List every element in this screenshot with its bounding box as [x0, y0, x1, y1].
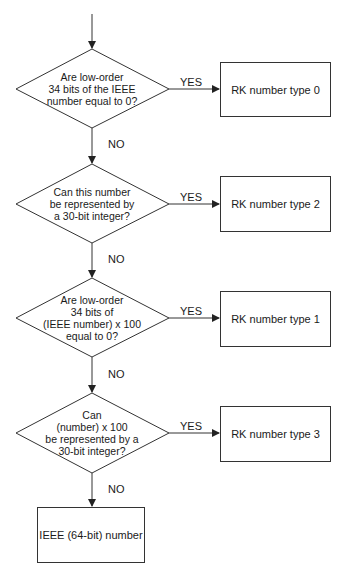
final-label: IEEE (64-bit) number [39, 529, 142, 541]
decision-text-4: Can (number) x 100 be represented by a 3… [32, 409, 152, 457]
no-label-2: NO [108, 253, 125, 265]
yes-label-1: YES [180, 76, 202, 88]
no-label-1: NO [108, 138, 125, 150]
outcome-box-type-1: RK number type 1 [220, 291, 331, 347]
no-label-3: NO [108, 368, 125, 380]
decision-1-line-3: number equal to 0? [32, 95, 152, 107]
yes-label-4: YES [180, 420, 202, 432]
decision-4-line-2: (number) x 100 [32, 421, 152, 433]
outcome-label-type-0: RK number type 0 [231, 84, 320, 96]
decision-1-line-2: 34 bits of the IEEE [32, 83, 152, 95]
decision-text-2: Can this number be represented by a 30-b… [32, 186, 152, 222]
decision-2-line-3: a 30-bit integer? [32, 210, 152, 222]
decision-3-line-4: equal to 0? [32, 330, 152, 342]
decision-4-line-4: 30-bit integer? [32, 445, 152, 457]
decision-text-1: Are low-order 34 bits of the IEEE number… [32, 71, 152, 107]
decision-3-line-2: 34 bits of [32, 306, 152, 318]
yes-label-2: YES [180, 191, 202, 203]
outcome-label-type-1: RK number type 1 [231, 313, 320, 325]
no-label-4: NO [108, 483, 125, 495]
decision-4-line-3: be represented by a [32, 433, 152, 445]
decision-2-line-2: be represented by [32, 198, 152, 210]
decision-3-line-3: (IEEE number) x 100 [32, 318, 152, 330]
outcome-label-type-2: RK number type 2 [231, 198, 320, 210]
outcome-box-type-3: RK number type 3 [220, 406, 331, 462]
decision-4-line-1: Can [32, 409, 152, 421]
decision-1-line-1: Are low-order [32, 71, 152, 83]
outcome-box-type-2: RK number type 2 [220, 176, 331, 232]
outcome-box-type-0: RK number type 0 [220, 62, 331, 117]
yes-label-3: YES [180, 305, 202, 317]
decision-3-line-1: Are low-order [32, 294, 152, 306]
outcome-label-type-3: RK number type 3 [231, 428, 320, 440]
decision-2-line-1: Can this number [32, 186, 152, 198]
decision-text-3: Are low-order 34 bits of (IEEE number) x… [32, 294, 152, 342]
final-box-ieee-number: IEEE (64-bit) number [37, 507, 145, 563]
